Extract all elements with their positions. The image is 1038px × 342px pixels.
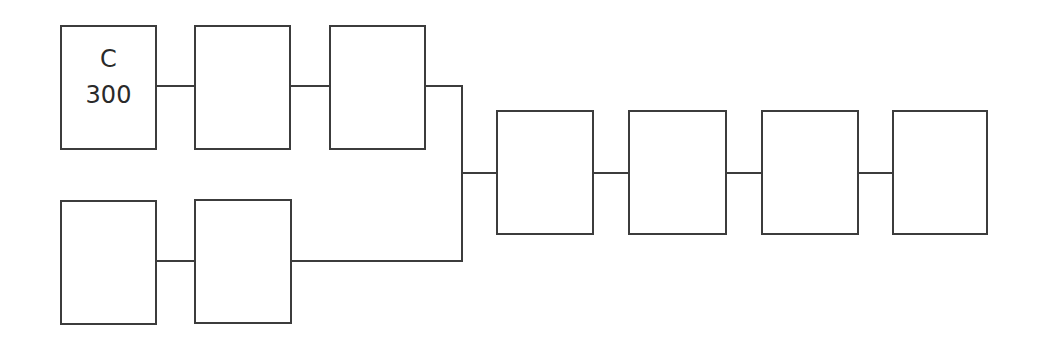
block-right-1 [496,110,594,235]
connector-top3-bus [426,85,463,87]
block-label-line1: C [100,41,117,77]
block-top-1: C 300 [60,25,157,150]
block-right-2 [628,110,727,235]
connector-right2-right3 [727,172,761,174]
connector-bottom1-bottom2 [157,260,194,262]
block-bottom-2 [194,199,292,324]
connector-top1-top2 [157,85,194,87]
block-top-3 [329,25,426,150]
connector-top2-top3 [291,85,329,87]
block-right-3 [761,110,859,235]
block-label-line2: 300 [86,77,132,113]
block-top-2 [194,25,291,150]
block-diagram: C 300 [0,0,1038,342]
connector-bottom2-bus [292,260,463,262]
block-right-4 [892,110,988,235]
connector-right3-right4 [859,172,892,174]
block-bottom-1 [60,200,157,325]
connector-bus-right1 [462,172,496,174]
connector-right1-right2 [594,172,628,174]
